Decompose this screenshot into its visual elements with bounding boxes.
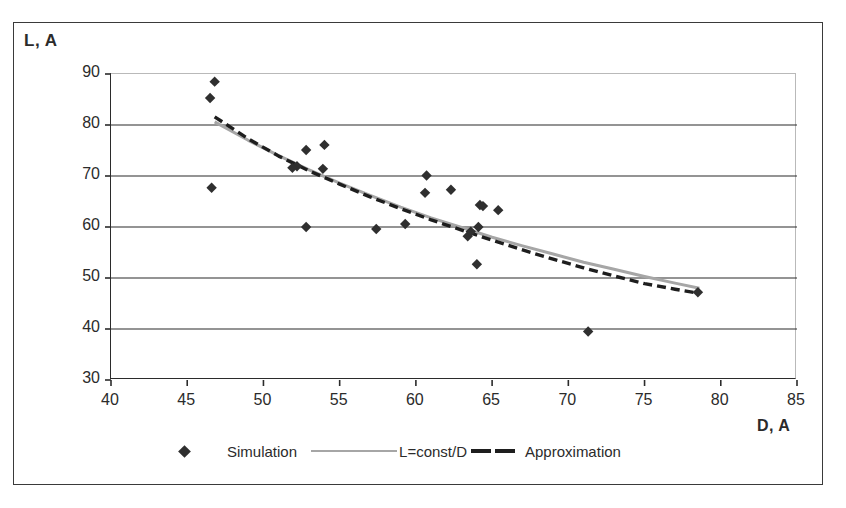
legend-item-label: Simulation — [227, 443, 297, 460]
x-axis-title: D, A — [757, 417, 790, 435]
series-line-approximation — [215, 117, 700, 293]
x-axis-tick-label: 60 — [390, 391, 440, 409]
data-point-marker — [301, 222, 311, 232]
legend-item-l-const-d: L=const/D — [297, 443, 467, 460]
x-axis-tick-label: 45 — [161, 391, 211, 409]
plot-area — [110, 73, 796, 379]
legend-item-label: Approximation — [525, 443, 621, 460]
y-axis-tick-label: 60 — [54, 216, 100, 234]
y-axis-tick-label: 70 — [54, 165, 100, 183]
data-point-marker — [371, 224, 381, 234]
data-point-marker — [301, 145, 311, 155]
data-point-marker — [446, 185, 456, 195]
y-axis-title: L, A — [24, 31, 57, 51]
y-axis-tick-label: 80 — [54, 114, 100, 132]
x-axis-tick-label: 75 — [619, 391, 669, 409]
figure-root: L, A D, A 304050607080904045505560657075… — [0, 0, 846, 508]
legend-item-label: L=const/D — [399, 443, 467, 460]
x-axis-tick-label: 55 — [314, 391, 364, 409]
data-point-marker — [420, 188, 430, 198]
x-axis-tick-label: 85 — [771, 391, 821, 409]
series-line-l-const-d — [215, 122, 700, 288]
legend-item-simulation: Simulation — [180, 443, 297, 460]
x-axis-tick-label: 50 — [237, 391, 287, 409]
data-point-marker — [493, 205, 503, 215]
x-axis-tick-label: 70 — [542, 391, 592, 409]
data-point-marker — [421, 170, 431, 180]
dashed-line-swatch — [471, 449, 491, 453]
plot-canvas — [111, 74, 797, 380]
legend-item-approximation: Approximation — [467, 443, 621, 460]
data-point-marker — [319, 140, 329, 150]
data-point-marker — [206, 183, 216, 193]
data-point-marker — [318, 164, 328, 174]
data-point-marker — [583, 326, 593, 336]
data-point-marker — [472, 259, 482, 269]
y-axis-tick-label: 30 — [54, 369, 100, 387]
data-point-marker — [209, 76, 219, 86]
diamond-marker-swatch — [178, 445, 191, 458]
y-axis-tick-label: 40 — [54, 318, 100, 336]
y-axis-tick-label: 90 — [54, 63, 100, 81]
x-axis-tick-label: 65 — [466, 391, 516, 409]
solid-line-swatch — [311, 450, 397, 452]
y-axis-tick-label: 50 — [54, 267, 100, 285]
data-point-marker — [205, 93, 215, 103]
x-axis-tick-label: 80 — [695, 391, 745, 409]
x-axis-tick-label: 40 — [85, 391, 135, 409]
dashed-line-swatch-second — [495, 449, 515, 453]
chart-legend: SimulationL=const/DApproximation — [180, 438, 700, 464]
